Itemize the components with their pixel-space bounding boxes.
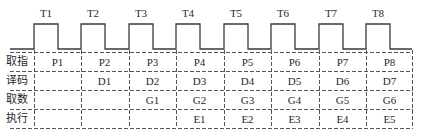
- stage-label-operand: 取数: [1, 93, 33, 107]
- cell-fetch-4: P4: [176, 55, 223, 69]
- clock-label-t4: T4: [176, 7, 200, 19]
- cell-operand-4: G2: [176, 93, 223, 107]
- stage-label-execute: 执行: [1, 112, 33, 126]
- cell-operand-3: G1: [129, 93, 176, 107]
- clock-label-t6: T6: [271, 7, 295, 19]
- cell-operand-8: G6: [366, 93, 413, 107]
- cell-decode-7: D6: [319, 74, 366, 88]
- cell-decode-8: D7: [366, 74, 413, 88]
- cell-fetch-7: P7: [319, 55, 366, 69]
- clock-label-t1: T1: [34, 7, 58, 19]
- cell-operand-5: G3: [224, 93, 271, 107]
- cell-operand-6: G4: [271, 93, 318, 107]
- clock-label-t5: T5: [224, 7, 248, 19]
- cell-decode-2: D1: [81, 74, 128, 88]
- cell-fetch-2: P2: [81, 55, 128, 69]
- cell-operand-7: G5: [319, 93, 366, 107]
- cell-fetch-6: P6: [271, 55, 318, 69]
- clock-label-t8: T8: [366, 7, 390, 19]
- stage-label-decode: 译码: [1, 74, 33, 88]
- clock-waveform: [10, 24, 412, 49]
- cell-fetch-1: P1: [34, 55, 81, 69]
- clock-label-t2: T2: [81, 7, 105, 19]
- cell-fetch-3: P3: [129, 55, 176, 69]
- cell-execute-5: E2: [224, 112, 271, 126]
- clock-label-t3: T3: [129, 7, 153, 19]
- clock-label-t7: T7: [319, 7, 343, 19]
- cell-decode-5: D4: [224, 74, 271, 88]
- cell-fetch-8: P8: [366, 55, 413, 69]
- cell-execute-7: E4: [319, 112, 366, 126]
- cell-decode-4: D3: [176, 74, 223, 88]
- cell-execute-8: E5: [366, 112, 413, 126]
- stage-label-fetch: 取指: [1, 55, 33, 69]
- cell-decode-6: D5: [271, 74, 318, 88]
- cell-execute-4: E1: [176, 112, 223, 126]
- cell-decode-3: D2: [129, 74, 176, 88]
- cell-fetch-5: P5: [224, 55, 271, 69]
- cell-execute-6: E3: [271, 112, 318, 126]
